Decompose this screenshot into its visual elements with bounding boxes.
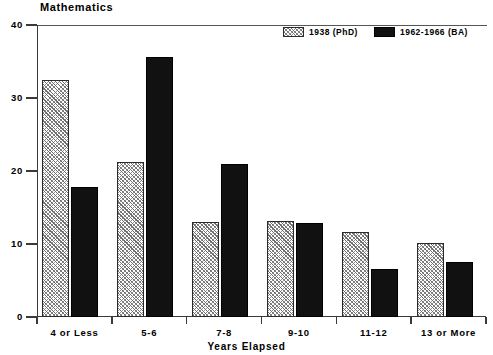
bar (417, 243, 444, 317)
y-axis-tick-label: 40 (0, 19, 23, 30)
y-axis-tick (26, 97, 37, 99)
x-axis-tick (111, 317, 113, 324)
x-axis-tick (410, 317, 412, 324)
x-axis-tick (485, 317, 487, 324)
legend-item: 1962-1966 (BA) (374, 27, 468, 37)
x-axis-tick (186, 317, 188, 324)
y-axis-tick-label: 10 (0, 238, 23, 249)
y-axis-tick (26, 170, 37, 172)
x-axis-tick-label: 13 or More (394, 327, 493, 338)
y-axis-tick (26, 243, 37, 245)
x-axis-title: Years Elapsed (0, 341, 493, 352)
bar (221, 164, 248, 317)
bar (146, 57, 173, 317)
bar-chart: Mathematics Percent 010203040 4 or Less5… (0, 0, 493, 355)
y-axis-tick-label: 0 (0, 311, 23, 322)
bar (342, 232, 369, 317)
x-axis-tick (261, 317, 263, 324)
legend-swatch-icon (283, 27, 304, 37)
y-axis-tick-label: 20 (0, 165, 23, 176)
legend-item: 1938 (PhD) (283, 27, 358, 37)
bar (371, 269, 398, 317)
legend-item-label: 1938 (PhD) (309, 27, 358, 37)
y-axis-tick (26, 24, 37, 26)
bar (42, 80, 69, 317)
legend: 1938 (PhD)1962-1966 (BA) (283, 27, 468, 37)
x-axis-tick (36, 317, 38, 324)
bar (446, 262, 473, 317)
bar (71, 187, 98, 317)
page-title: Mathematics (40, 1, 113, 13)
x-axis-tick (336, 317, 338, 324)
bar (117, 162, 144, 317)
bar (267, 221, 294, 317)
legend-item-label: 1962-1966 (BA) (400, 27, 468, 37)
bar (296, 223, 323, 317)
y-axis-tick-label: 30 (0, 92, 23, 103)
bar (192, 222, 219, 317)
legend-swatch-icon (374, 27, 395, 37)
